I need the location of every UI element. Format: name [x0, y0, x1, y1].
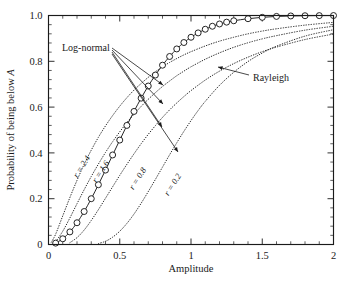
y-tick-label-2: 0.4 [29, 148, 43, 159]
curve-lognormal-4 [98, 30, 333, 244]
rayleigh-data-point [67, 229, 73, 235]
curve-label-1: r = 2.4 [71, 153, 93, 179]
log-normal-annotation: Log-normal [62, 42, 110, 53]
x-tick-label-0: 0 [46, 250, 51, 261]
rayleigh-data-point [124, 122, 130, 128]
x-axis-title: Amplitude [169, 263, 214, 274]
x-axis-tick-labels: 00.511.52 [46, 250, 336, 261]
curve-label-4: r = 0.2 [162, 171, 184, 197]
probability-distribution-chart: 00.511.52 00.20.40.60.81.0 Amplitude Pro… [0, 0, 350, 285]
y-axis-title-text: Probability of being below [5, 78, 16, 191]
rayleigh-data-point [74, 220, 80, 226]
rayleigh-data-point [245, 16, 251, 22]
y-axis-tick-labels: 00.20.40.60.81.0 [29, 10, 43, 250]
curve-lognormal-1 [51, 22, 333, 242]
curve-lognormal-2 [56, 26, 334, 241]
x-tick-label-3: 1.5 [256, 250, 269, 261]
curve-lognormal-3 [70, 34, 334, 243]
rayleigh-annotation: Rayleigh [253, 72, 289, 83]
rayleigh-leader [218, 67, 249, 75]
y-axis-title: Probability of being below A [5, 69, 16, 191]
chart-figure: 00.511.52 00.20.40.60.81.0 Amplitude Pro… [0, 0, 350, 285]
rayleigh-data-point [217, 21, 223, 27]
rayleigh-data-point [202, 26, 208, 32]
rayleigh-data-point [209, 23, 215, 29]
rayleigh-data-point [224, 19, 230, 25]
lognormal-leader-3-head [174, 147, 178, 152]
x-tick-label-1: 0.5 [113, 250, 126, 261]
rayleigh-data-point [188, 34, 194, 40]
rayleigh-data-point [195, 30, 201, 36]
rayleigh-data-point [131, 108, 137, 114]
rayleigh-data-point [81, 209, 87, 215]
rayleigh-data-point [110, 152, 116, 158]
rayleigh-data-point [167, 53, 173, 59]
rayleigh-data-point [274, 13, 280, 19]
curve-labels: r = 2.4r = 1.6r = 0.8r = 0.2 [71, 153, 184, 197]
rayleigh-data-point [152, 72, 158, 78]
lognormal-leader-3 [112, 54, 178, 152]
lognormal-leader-2 [112, 52, 162, 127]
x-tick-label-2: 1 [188, 250, 193, 261]
curve-label-3: r = 0.8 [127, 165, 149, 191]
rayleigh-data-point [160, 62, 166, 68]
y-tick-label-1: 0.2 [29, 193, 42, 204]
rayleigh-data-point [60, 236, 66, 242]
y-tick-label-3: 0.6 [29, 102, 42, 113]
rayleigh-data-point [231, 18, 237, 24]
rayleigh-data-point [117, 137, 123, 143]
x-tick-label-4: 2 [331, 250, 336, 261]
y-tick-label-0: 0 [37, 239, 42, 250]
y-tick-label-4: 0.8 [29, 56, 42, 67]
rayleigh-data-point [174, 46, 180, 52]
y-tick-label-5: 1.0 [29, 10, 42, 21]
y-axis-title-variable: A [5, 69, 16, 78]
lognormal-leader-0 [112, 48, 163, 85]
rayleigh-data-point [181, 40, 187, 46]
rayleigh-data-point [53, 240, 59, 246]
lognormal-leader-0-head [158, 81, 163, 85]
rayleigh-data-point [88, 196, 94, 202]
